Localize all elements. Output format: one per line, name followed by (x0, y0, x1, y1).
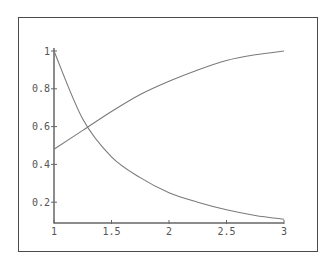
decreasing-curve (54, 51, 284, 219)
x-tick-label: 2.5 (217, 226, 235, 237)
y-tick-label: 1 (44, 46, 50, 57)
curves (54, 51, 284, 219)
increasing-curve (54, 51, 284, 149)
x-tick-label: 3 (281, 226, 287, 237)
x-tick-label: 1 (51, 226, 57, 237)
y-tick-label: 0.4 (32, 159, 50, 170)
x-tick-label: 2 (166, 226, 172, 237)
y-tick-label: 0.6 (32, 121, 50, 132)
ticks: 0.20.40.60.8111.522.53 (32, 46, 287, 237)
y-tick-label: 0.8 (32, 83, 50, 94)
x-tick-label: 1.5 (102, 226, 120, 237)
y-tick-label: 0.2 (32, 197, 50, 208)
line-chart: 0.20.40.60.8111.522.53 (0, 0, 336, 267)
axes (54, 48, 284, 223)
